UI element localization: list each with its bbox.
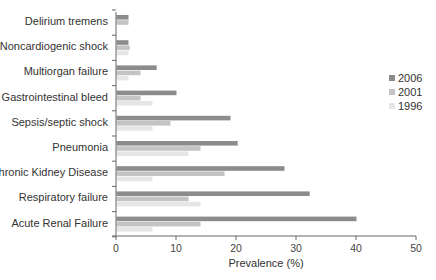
x-tick-label: 40 (350, 242, 362, 254)
x-tick-label: 10 (170, 242, 182, 254)
bar-2006 (117, 166, 285, 171)
bar-1996 (117, 177, 153, 182)
bar-1996 (117, 227, 153, 232)
category-label: Sepsis/septic shock (11, 116, 108, 128)
bar-2006 (117, 65, 157, 70)
bar-1996 (117, 151, 189, 156)
category-label: Respiratory failure (19, 191, 108, 203)
bar-2001 (117, 20, 129, 25)
x-tick-label: 30 (290, 242, 302, 254)
legend-swatch-2001 (389, 89, 395, 95)
bar-1996 (117, 76, 129, 81)
category-label: Noncardiogenic shock (0, 40, 108, 52)
category-label: Acute Renal Failure (11, 217, 108, 229)
bar-2001 (117, 71, 141, 76)
bar-2001 (117, 121, 171, 126)
bar-1996 (117, 202, 201, 207)
bar-2006 (117, 191, 310, 196)
legend-swatch-2006 (389, 75, 395, 81)
category-label: Gastrointestinal bleed (2, 91, 108, 103)
x-axis-title: Prevalence (%) (228, 257, 303, 269)
category-labels: Delirium tremensNoncardiogenic shockMult… (0, 15, 109, 229)
legend-label: 2001 (398, 86, 422, 98)
bar-2006 (117, 141, 238, 146)
x-tick-label: 50 (410, 242, 422, 254)
category-label: Pneumonia (52, 141, 109, 153)
x-tick-label: 20 (230, 242, 242, 254)
bar-1996 (117, 51, 129, 56)
legend-swatch-1996 (389, 103, 395, 109)
bar-chart: Delirium tremensNoncardiogenic shockMult… (0, 0, 436, 280)
category-label: Chronic Kidney Disease (0, 166, 108, 178)
bar-1996 (117, 126, 153, 131)
category-label: Delirium tremens (25, 15, 109, 27)
legend-label: 1996 (398, 100, 422, 112)
bar-2001 (117, 222, 201, 227)
bar-2001 (117, 96, 141, 101)
bar-2001 (117, 45, 130, 50)
bar-2006 (117, 40, 129, 45)
y-ticks (112, 10, 116, 237)
bar-2006 (117, 91, 177, 96)
bar-1996 (117, 101, 153, 106)
legend: 200620011996 (389, 72, 422, 112)
bar-2001 (117, 146, 201, 151)
legend-label: 2006 (398, 72, 422, 84)
bar-2006 (117, 15, 129, 20)
x-tick-label: 0 (113, 242, 119, 254)
bar-2001 (117, 197, 189, 202)
category-label: Multiorgan failure (24, 65, 108, 77)
bar-2006 (117, 116, 231, 121)
bars-area (117, 15, 357, 232)
x-ticks: 01020304050 (113, 236, 422, 254)
bar-2001 (117, 171, 225, 176)
bar-2006 (117, 217, 357, 222)
